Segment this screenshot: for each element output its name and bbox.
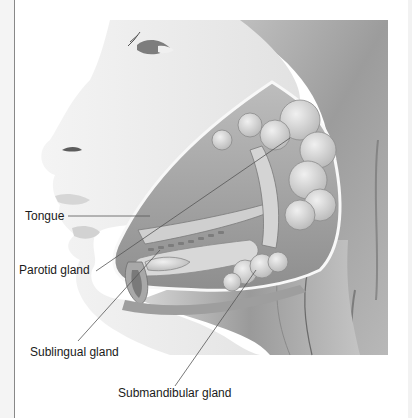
sublingual-gland-label: Sublingual gland: [30, 345, 119, 359]
tongue-label: Tongue: [25, 209, 64, 223]
parotid-gland-label: Parotid gland: [19, 263, 90, 277]
submandibular-gland-label: Submandibular gland: [118, 386, 231, 400]
